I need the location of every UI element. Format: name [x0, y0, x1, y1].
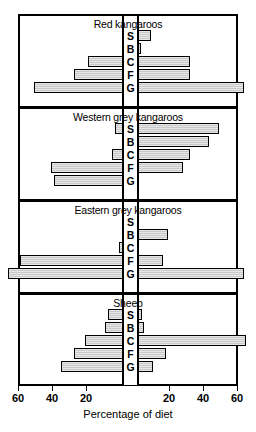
- category-label: F: [124, 69, 137, 82]
- bar-left: [85, 335, 124, 346]
- category-label: B: [124, 136, 137, 149]
- category-label: G: [124, 175, 137, 188]
- category-gutter: SBCFG: [124, 309, 137, 385]
- x-tick-label: 20: [74, 392, 98, 405]
- x-tick: [203, 386, 204, 391]
- bar-left: [54, 175, 124, 186]
- bar-left: [88, 56, 124, 67]
- category-label: S: [124, 123, 137, 136]
- category-label: B: [124, 229, 137, 242]
- x-tick: [169, 386, 170, 391]
- panel-4: SheepSBCFG: [18, 293, 238, 386]
- category-label: B: [124, 43, 137, 56]
- bar-right: [137, 162, 183, 173]
- x-tick-label: 60: [225, 392, 249, 405]
- x-tick-label: 40: [40, 392, 64, 405]
- x-axis-title: Percentage of diet: [0, 408, 256, 421]
- bar-right: [137, 361, 153, 372]
- bar-right: [137, 335, 246, 346]
- category-label: F: [124, 255, 137, 268]
- category-label: C: [124, 335, 137, 348]
- bar-right: [137, 229, 168, 240]
- bar-right: [137, 149, 190, 160]
- x-tick: [52, 386, 53, 391]
- category-label: S: [124, 216, 137, 229]
- category-gutter: SBCFG: [124, 123, 137, 199]
- category-label: C: [124, 242, 137, 255]
- panel-3: Eastern grey kangaroosSBCFG: [18, 200, 238, 293]
- bar-right: [137, 123, 219, 134]
- panel-title: Sheep: [20, 297, 236, 309]
- category-label: G: [124, 82, 137, 95]
- category-label: C: [124, 149, 137, 162]
- bar-left: [34, 82, 124, 93]
- category-label: G: [124, 361, 137, 374]
- bar-left: [61, 361, 124, 372]
- bar-right: [137, 268, 244, 279]
- bar-right: [137, 56, 190, 67]
- panel-title: Eastern grey kangaroos: [20, 204, 236, 216]
- panel-1: Red kangaroosSBCFG: [18, 14, 238, 107]
- category-label: F: [124, 348, 137, 361]
- category-label: F: [124, 162, 137, 175]
- bar-left: [74, 348, 124, 359]
- panel-title: Red kangaroos: [20, 18, 236, 30]
- bar-left: [74, 69, 124, 80]
- bar-right: [137, 69, 190, 80]
- bar-right: [137, 30, 151, 41]
- panel-2: Western grey kangaroosSBCFG: [18, 107, 238, 200]
- diet-composition-figure: Red kangaroosSBCFGWestern grey kangaroos…: [0, 0, 256, 432]
- x-tick: [86, 386, 87, 391]
- category-label: C: [124, 56, 137, 69]
- bar-left: [8, 268, 124, 279]
- x-tick-label: 60: [6, 392, 30, 405]
- category-label: S: [124, 30, 137, 43]
- category-gutter: SBCFG: [124, 216, 137, 292]
- category-label: B: [124, 322, 137, 335]
- bar-right: [137, 136, 209, 147]
- category-label: G: [124, 268, 137, 281]
- panel-stack: Red kangaroosSBCFGWestern grey kangaroos…: [18, 14, 238, 386]
- bar-left: [20, 255, 124, 266]
- bar-right: [137, 255, 163, 266]
- bar-right: [137, 348, 166, 359]
- category-label: S: [124, 309, 137, 322]
- category-gutter: SBCFG: [124, 30, 137, 106]
- panel-title: Western grey kangaroos: [20, 111, 236, 123]
- x-tick: [237, 386, 238, 391]
- x-tick-label: 20: [157, 392, 181, 405]
- bar-left: [51, 162, 124, 173]
- x-axis-tick-labels: 604020204060: [0, 392, 256, 406]
- bar-right: [137, 82, 244, 93]
- x-tick: [18, 386, 19, 391]
- x-tick-label: 40: [191, 392, 215, 405]
